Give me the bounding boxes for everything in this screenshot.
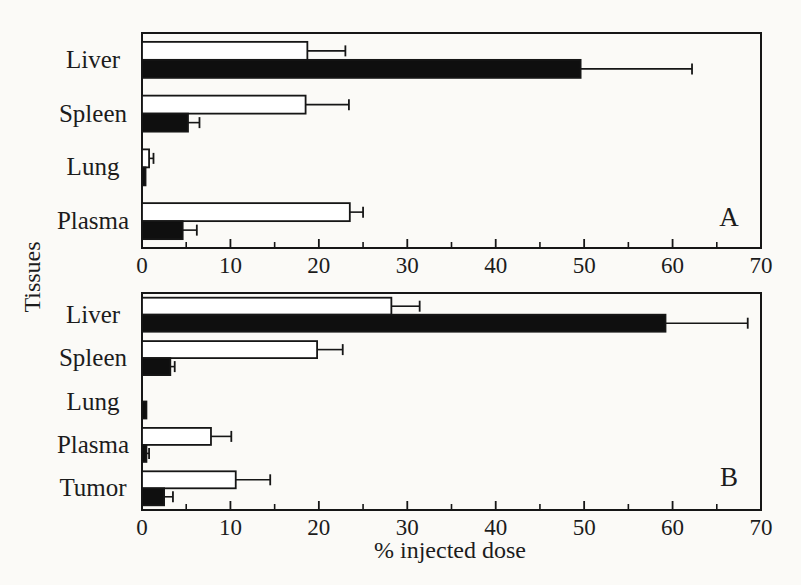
x-tick-label: 20	[307, 515, 330, 540]
tissue-label: Plasma	[57, 431, 129, 458]
b-tumor-open-bar	[142, 471, 236, 488]
x-tick-label: 60	[661, 515, 684, 540]
b-plasma-open-bar	[142, 428, 211, 445]
tissue-label: Plasma	[57, 207, 129, 234]
b-plasma-solid-bar	[142, 445, 146, 462]
x-tick-label: 60	[661, 253, 684, 278]
chart-canvas: 010203040506070LiverSpleenLungPlasmaA 01…	[0, 0, 801, 585]
tissue-label: Spleen	[59, 100, 128, 127]
x-tick-label: 30	[396, 253, 419, 278]
tissue-label: Tumor	[59, 474, 127, 501]
b-lung-solid-bar	[142, 402, 146, 419]
x-tick-label: 20	[307, 253, 330, 278]
dual-panel-bar-chart: 010203040506070LiverSpleenLungPlasmaA 01…	[0, 0, 801, 585]
x-axis-label: % injected dose	[374, 537, 526, 563]
a-lung-solid-bar	[142, 167, 146, 185]
b-liver-solid-bar	[142, 315, 665, 332]
x-tick-label: 70	[750, 253, 773, 278]
b-spleen-open-bar	[142, 341, 317, 358]
x-tick-label: 0	[136, 515, 148, 540]
x-tick-label: 70	[750, 515, 773, 540]
b-spleen-solid-bar	[142, 358, 170, 375]
a-lung-open-bar	[142, 149, 149, 167]
panel-letter: B	[720, 462, 738, 492]
x-tick-label: 10	[219, 253, 242, 278]
a-spleen-open-bar	[142, 96, 306, 114]
tissue-label: Lung	[67, 153, 120, 180]
panel-a: 010203040506070LiverSpleenLungPlasmaA	[57, 33, 773, 278]
tissue-label: Spleen	[59, 344, 128, 371]
x-tick-label: 40	[484, 253, 507, 278]
a-liver-solid-bar	[142, 60, 581, 78]
x-tick-label: 10	[219, 515, 242, 540]
tissue-label: Lung	[67, 388, 120, 415]
a-spleen-solid-bar	[142, 114, 188, 132]
b-liver-open-bar	[142, 298, 391, 315]
panel-letter: A	[719, 202, 739, 232]
x-tick-label: 50	[573, 515, 596, 540]
tissue-label: Liver	[66, 46, 121, 73]
y-axis-label: Tissues	[19, 241, 45, 312]
b-tumor-solid-bar	[142, 488, 164, 505]
tissue-label: Liver	[66, 301, 121, 328]
panel-b: 010203040506070LiverSpleenLungPlasmaTumo…	[57, 293, 773, 540]
a-plasma-open-bar	[142, 203, 350, 221]
a-liver-open-bar	[142, 42, 307, 60]
x-tick-label: 0	[136, 253, 148, 278]
a-plasma-solid-bar	[142, 221, 183, 239]
x-tick-label: 50	[573, 253, 596, 278]
